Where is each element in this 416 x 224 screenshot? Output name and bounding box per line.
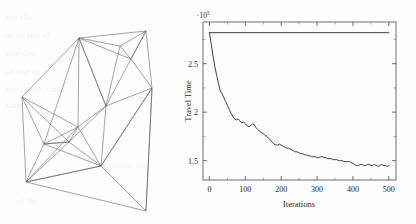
mesh-edge bbox=[101, 166, 146, 211]
convergence-chart-panel: ·105 0100200300400500 1.522.5 Iterations… bbox=[180, 0, 416, 224]
x-tick-label: 0 bbox=[207, 185, 211, 194]
mesh-edge bbox=[79, 38, 131, 59]
figure-container: the theof to the ofone theof the inthe t… bbox=[0, 0, 416, 224]
mesh-edge bbox=[131, 59, 152, 88]
x-tick-label: 400 bbox=[347, 185, 359, 194]
mesh-edge bbox=[26, 182, 146, 211]
series-group bbox=[209, 33, 388, 167]
mesh-edge bbox=[22, 97, 78, 127]
mesh-edge bbox=[26, 166, 101, 182]
mesh-edge bbox=[78, 106, 106, 127]
mesh-edge bbox=[106, 59, 131, 106]
mesh-edge bbox=[69, 106, 106, 142]
mesh-edge bbox=[22, 38, 79, 97]
mesh-panel bbox=[0, 0, 180, 224]
x-axis-title: Iterations bbox=[283, 199, 315, 209]
convergence-chart-svg: ·105 0100200300400500 1.522.5 Iterations… bbox=[180, 0, 416, 224]
tetrahedral-mesh-svg bbox=[0, 0, 180, 224]
mesh-edge bbox=[146, 31, 152, 88]
mesh-edge bbox=[79, 38, 106, 106]
mesh-edge bbox=[22, 97, 44, 144]
mesh-edge bbox=[26, 142, 69, 182]
mesh-edge bbox=[101, 88, 152, 166]
x-tick-label: 300 bbox=[311, 185, 323, 194]
series-optimized-travel-time bbox=[209, 33, 388, 167]
plot-frame bbox=[203, 22, 396, 180]
mesh-edge bbox=[26, 127, 78, 182]
x-tick-label: 200 bbox=[275, 185, 287, 194]
y-axis-exponent-label: ·105 bbox=[197, 10, 210, 20]
mesh-edge bbox=[79, 38, 120, 46]
mesh-edge-group bbox=[22, 31, 152, 211]
y-tick-label: 2 bbox=[194, 108, 198, 117]
mesh-edge bbox=[78, 127, 101, 166]
x-tick-label: 100 bbox=[239, 185, 251, 194]
mesh-edge bbox=[106, 88, 152, 106]
x-axis-ticks bbox=[209, 22, 388, 180]
x-axis-tick-labels: 0100200300400500 bbox=[207, 185, 394, 194]
mesh-edge bbox=[69, 142, 101, 166]
x-tick-label: 500 bbox=[383, 185, 395, 194]
mesh-edge bbox=[22, 97, 26, 182]
mesh-edge bbox=[44, 38, 79, 144]
mesh-edge bbox=[101, 106, 106, 166]
y-tick-label: 2.5 bbox=[188, 60, 198, 69]
mesh-edge bbox=[78, 38, 79, 127]
mesh-edge bbox=[26, 144, 44, 182]
y-tick-label: 1.5 bbox=[188, 157, 198, 166]
mesh-edge bbox=[44, 144, 101, 166]
mesh-edge bbox=[146, 88, 152, 211]
mesh-edge bbox=[106, 46, 120, 106]
y-axis-ticks bbox=[203, 39, 396, 160]
y-axis-title: Travel Time bbox=[183, 80, 193, 122]
